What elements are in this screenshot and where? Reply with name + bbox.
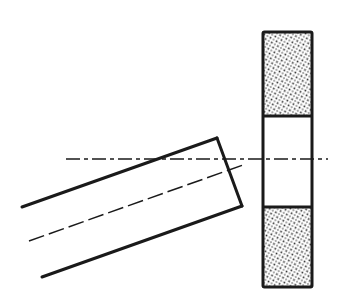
wheel-top-hatched-section [263,32,312,116]
wheel-bottom-hatched-section [263,207,312,287]
tool-bottom-edge [42,206,242,277]
diagram-canvas [0,0,343,305]
tool-top-edge [22,138,217,207]
tool-end-edge [217,138,242,206]
tool-axis-line [29,165,243,241]
